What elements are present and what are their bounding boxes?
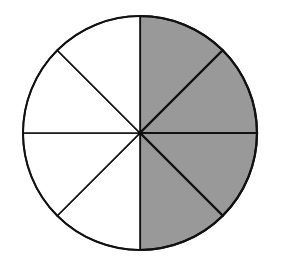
fraction-circle-diagram	[0, 0, 286, 260]
sectors	[23, 16, 257, 250]
